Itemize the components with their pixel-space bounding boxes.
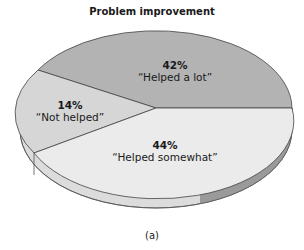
figure-caption: (a) bbox=[0, 230, 304, 241]
pie-chart bbox=[0, 0, 304, 250]
label-helped-somewhat: 44% “Helped somewhat” bbox=[100, 139, 230, 163]
label-helped-a-lot: 42% “Helped a lot” bbox=[120, 59, 230, 83]
label-not-helped: 14% “Not helped” bbox=[20, 99, 120, 123]
